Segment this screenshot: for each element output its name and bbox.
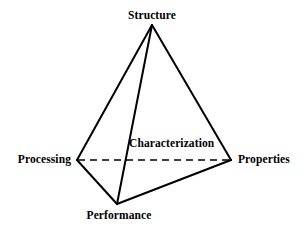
tetrahedron-diagram: Structure Processing Properties Performa… — [0, 0, 304, 232]
edge-performance-properties — [117, 160, 231, 204]
vertex-label-properties: Properties — [238, 154, 290, 166]
edge-processing-performance — [77, 160, 117, 204]
tetrahedron-svg — [0, 0, 304, 232]
vertex-label-processing: Processing — [18, 154, 71, 166]
vertex-label-performance: Performance — [87, 210, 152, 222]
vertex-label-structure: Structure — [128, 10, 176, 22]
edge-structure-performance — [117, 25, 152, 204]
interior-label-characterization: Characterization — [129, 138, 214, 150]
